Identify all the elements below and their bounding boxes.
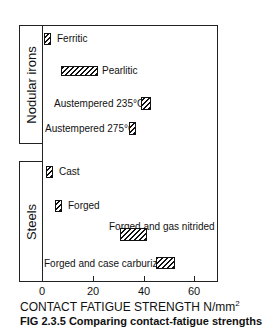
bar-cast — [46, 166, 53, 178]
tick-20 — [93, 276, 94, 282]
x-axis-label-text: CONTACT FATIGUE STRENGTH N/mm — [20, 300, 235, 314]
tick-40 — [144, 276, 145, 282]
tick-label-40: 40 — [138, 285, 150, 297]
tick-0 — [42, 276, 43, 282]
group-box-steels: Steels — [19, 161, 43, 282]
bar-pearlitic — [61, 66, 98, 76]
label-case-carburized: Forged and case carburized — [44, 259, 169, 269]
x-axis-label: CONTACT FATIGUE STRENGTH N/mm2 — [20, 299, 240, 314]
label-austempered-275: Austempered 275°C — [45, 124, 135, 134]
group-label-steels: Steels — [24, 203, 39, 239]
label-ferritic: Ferritic — [57, 34, 88, 44]
bar-case-carburized — [156, 257, 175, 269]
plot-frame — [42, 25, 218, 282]
bar-gas-nitrided — [120, 228, 147, 241]
bar-austempered-235 — [141, 97, 151, 110]
figure-caption: FIG 2.3.5 Comparing contact-fatigue stre… — [20, 315, 262, 327]
tick-label-0: 0 — [39, 285, 45, 297]
label-cast: Cast — [59, 167, 80, 177]
group-box-nodular-irons: Nodular irons — [19, 25, 43, 144]
label-pearlitic: Pearlitic — [102, 66, 138, 76]
tick-60 — [194, 276, 195, 282]
label-austempered-235: Austempered 235°C — [54, 99, 144, 109]
bar-austempered-275 — [129, 122, 136, 135]
x-axis-label-superscript: 2 — [235, 299, 239, 308]
tick-label-60: 60 — [188, 285, 200, 297]
group-label-nodular-irons: Nodular irons — [24, 46, 39, 123]
label-forged: Forged — [68, 201, 100, 211]
bar-forged — [55, 200, 62, 212]
tick-label-20: 20 — [87, 285, 99, 297]
bar-ferritic — [44, 33, 51, 45]
